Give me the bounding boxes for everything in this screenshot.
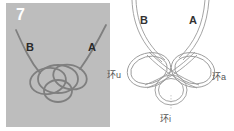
loop-label-i: 环i: [160, 112, 171, 125]
knot-diagram: B A 环u 环a 环i: [117, 0, 234, 131]
photo-label-b: B: [26, 41, 34, 53]
step-photo: 7 B A: [6, 3, 110, 127]
diagram-label-b: B: [140, 14, 148, 26]
photo-label-a: A: [88, 41, 96, 53]
loop-label-a: 环a: [212, 70, 226, 83]
diagram-label-a: A: [189, 14, 197, 26]
loop-label-u: 环u: [107, 68, 121, 81]
knot-line-drawing: [117, 0, 234, 131]
step-number: 7: [16, 7, 25, 23]
